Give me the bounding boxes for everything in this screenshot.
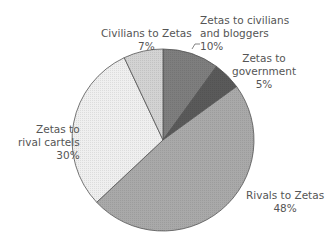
- label-civilians-to-zetas: Civilians to Zetas 7%: [101, 27, 192, 53]
- label-text: Zetas to: [18, 123, 80, 136]
- label-text: government: [232, 65, 296, 78]
- label-pct: 48%: [246, 202, 324, 215]
- label-rivals-to-zetas: Rivals to Zetas 48%: [246, 189, 324, 215]
- label-pct: 30%: [18, 149, 80, 162]
- label-zetas-to-rival-cartels: Zetas to rival cartels 30%: [18, 123, 80, 162]
- label-pct: 7%: [101, 40, 192, 53]
- leader-line: [192, 44, 200, 49]
- label-text: Civilians to Zetas: [101, 27, 192, 40]
- label-zetas-to-civilians: Zetas to civilians and bloggers 10%: [200, 14, 289, 53]
- pie-slices: [72, 49, 254, 231]
- label-pct: 5%: [232, 78, 296, 91]
- label-text: Rivals to Zetas: [246, 189, 324, 202]
- label-text: Zetas to civilians: [200, 14, 289, 27]
- label-text: Zetas to: [232, 52, 296, 65]
- label-text: and bloggers: [200, 27, 289, 40]
- label-text: rival cartels: [18, 136, 80, 149]
- label-zetas-to-government: Zetas to government 5%: [232, 52, 296, 91]
